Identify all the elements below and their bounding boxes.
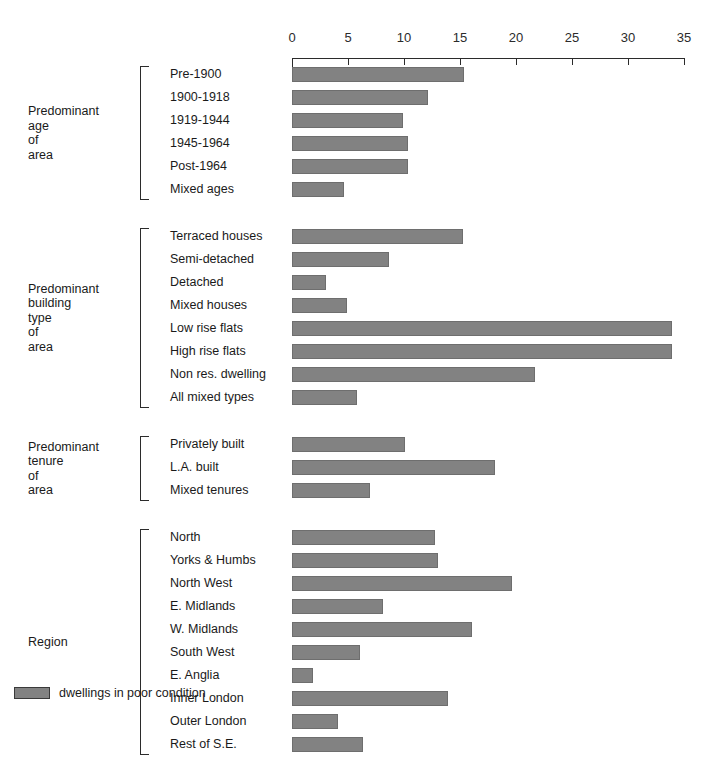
bar-row-label: Mixed ages [170,182,234,197]
bar-row: Privately built [0,434,716,457]
axis-tick-label: 30 [621,30,635,45]
bar [292,321,672,336]
bar-row: Terraced houses [0,226,716,249]
bar [292,668,313,683]
bar-row-label: 1900-1918 [170,90,230,105]
bar-row: Outer London [0,711,716,734]
bar [292,367,535,382]
bar-row: Yorks & Humbs [0,550,716,573]
bar-row-label: Rest of S.E. [170,737,237,752]
bar-row: Semi-detached [0,249,716,272]
bar-row: W. Midlands [0,619,716,642]
bar [292,344,672,359]
bar-row: Rest of S.E. [0,734,716,757]
bar [292,298,347,313]
bar [292,275,326,290]
bar-row-label: Privately built [170,437,244,452]
axis-tick-label: 15 [453,30,467,45]
bar-row-label: E. Anglia [170,668,219,683]
bar-row-label: Pre-1900 [170,67,221,82]
bar [292,622,472,637]
bar [292,136,408,151]
bar-row: Low rise flats [0,318,716,341]
axis-tick-label: 10 [397,30,411,45]
bar-row-label: North West [170,576,232,591]
bar-row-label: 1945-1964 [170,136,230,151]
bar-row-label: Non res. dwelling [170,367,266,382]
bar-row: 1945-1964 [0,133,716,156]
plot-area: Predominant age of areaPre-19001900-1918… [0,58,716,678]
bar [292,90,428,105]
axis-tick-label: 0 [288,30,295,45]
legend: dwellings in poor condition [14,686,206,700]
bar [292,437,405,452]
bar [292,645,360,660]
bar-row: Mixed tenures [0,480,716,503]
bar [292,576,512,591]
bar [292,229,463,244]
bar-row: E. Anglia [0,665,716,688]
bar-row-label: W. Midlands [170,622,238,637]
bar-row-label: Mixed houses [170,298,247,313]
bar [292,460,495,475]
bar [292,252,389,267]
bar-row: Mixed ages [0,179,716,202]
bar [292,737,363,752]
bar-group: RegionNorthYorks & HumbsNorth WestE. Mid… [0,527,716,757]
bar [292,390,357,405]
bar-row: L.A. built [0,457,716,480]
bar-row: All mixed types [0,387,716,410]
bar-row-label: South West [170,645,234,660]
legend-swatch [14,687,50,699]
axis-tick-label: 20 [509,30,523,45]
bar-row-label: Low rise flats [170,321,243,336]
bar [292,530,435,545]
bar [292,553,438,568]
bar-row-label: E. Midlands [170,599,235,614]
bar-row-label: All mixed types [170,390,254,405]
bar-row-label: Yorks & Humbs [170,553,256,568]
bar-row: Detached [0,272,716,295]
bar-row: Pre-1900 [0,64,716,87]
bar-row-label: Semi-detached [170,252,254,267]
bar-group: Predominant tenure of areaPrivately buil… [0,434,716,503]
legend-label: dwellings in poor condition [59,686,206,700]
bar-row-label: L.A. built [170,460,219,475]
bar-row: Post-1964 [0,156,716,179]
bar-row: North [0,527,716,550]
bar [292,182,344,197]
bar-row-label: Post-1964 [170,159,227,174]
bar-row-label: Detached [170,275,224,290]
bar [292,483,370,498]
bar-row: High rise flats [0,341,716,364]
bar-group: Predominant age of areaPre-19001900-1918… [0,64,716,202]
bar-row-label: High rise flats [170,344,246,359]
bar-row: 1900-1918 [0,87,716,110]
axis-tick-label: 25 [565,30,579,45]
bar-row-label: Terraced houses [170,229,262,244]
bar-row: 1919-1944 [0,110,716,133]
bar-row: South West [0,642,716,665]
bar [292,691,448,706]
bar-row-label: North [170,530,201,545]
bar-group: Predominant building type of areaTerrace… [0,226,716,410]
bar [292,714,338,729]
bar [292,113,403,128]
bar [292,159,408,174]
bar-row: E. Midlands [0,596,716,619]
bar-row: Non res. dwelling [0,364,716,387]
bar-row-label: Outer London [170,714,246,729]
axis-tick-label: 35 [677,30,691,45]
axis-tick-label: 5 [344,30,351,45]
bar-row: North West [0,573,716,596]
bar-row-label: 1919-1944 [170,113,230,128]
bar-row: Mixed houses [0,295,716,318]
bar-row-label: Mixed tenures [170,483,249,498]
bar [292,599,383,614]
bar [292,67,464,82]
